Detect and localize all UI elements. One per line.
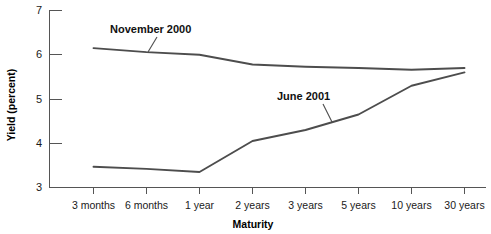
annotation-label-november-2000: November 2000 [110,23,191,35]
x-tick-label-30-years: 30 years [444,199,484,211]
x-tick-label-6-months: 6 months [125,199,168,211]
y-tick-label-4: 4 [36,137,42,149]
y-tick-label-6: 6 [36,48,42,60]
x-tick-label-5-years: 5 years [341,199,375,211]
x-tick-label-2-years: 2 years [235,199,269,211]
chart-canvas: Yield (percent) 7 6 5 4 3 [0,0,491,234]
y-tick-label-3: 3 [36,181,42,193]
annotation-november-2000: November 2000 [110,23,191,52]
x-tick-labels: 3 months 6 months 1 year 2 years 3 years… [72,199,485,211]
x-tick-label-10-years: 10 years [391,199,431,211]
series-line-november-2000 [94,48,465,70]
y-tick-labels: 7 6 5 4 3 [36,4,42,193]
annotation-june-2001: June 2001 [277,90,332,122]
x-tick-label-3-years: 3 years [288,199,322,211]
yield-curve-chart: Yield (percent) 7 6 5 4 3 [0,0,491,234]
x-axis-title: Maturity [233,218,274,230]
leader-line-june-2001 [323,104,332,122]
leader-line-november-2000 [148,37,157,52]
annotation-label-june-2001: June 2001 [277,90,330,102]
x-tick-marks [94,188,465,195]
y-tick-marks [50,11,63,144]
x-tick-label-1-year: 1 year [185,199,215,211]
x-tick-label-3-months: 3 months [72,199,115,211]
y-tick-label-7: 7 [36,4,42,16]
series-line-june-2001 [94,72,465,172]
y-axis-title: Yield (percent) [5,69,17,142]
y-tick-label-5: 5 [36,93,42,105]
